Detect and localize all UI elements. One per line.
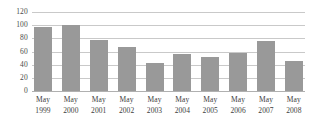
bar xyxy=(285,61,303,91)
x-tick-year: 2000 xyxy=(62,105,80,116)
x-tick-month: May xyxy=(257,94,275,105)
bar xyxy=(118,47,136,91)
bar xyxy=(62,25,80,91)
x-tick-label: May2005 xyxy=(201,94,219,116)
y-tick-label: 40 xyxy=(0,61,28,69)
y-axis-labels: 120100806040200 xyxy=(0,0,28,133)
x-tick-year: 2005 xyxy=(201,105,219,116)
x-tick-year: 2007 xyxy=(257,105,275,116)
y-tick-label: 100 xyxy=(0,21,28,29)
x-tick-month: May xyxy=(118,94,136,105)
x-tick-month: May xyxy=(173,94,191,105)
x-tick-year: 2002 xyxy=(118,105,136,116)
bar xyxy=(229,53,247,91)
x-tick-month: May xyxy=(146,94,164,105)
x-tick-year: 2008 xyxy=(285,105,303,116)
x-tick-year: 2006 xyxy=(229,105,247,116)
bar-chart: 120100806040200 May1999May2000May2001May… xyxy=(0,0,316,133)
x-tick-month: May xyxy=(34,94,52,105)
x-tick-year: 2001 xyxy=(90,105,108,116)
x-tick-year: 2004 xyxy=(173,105,191,116)
x-tick-month: May xyxy=(90,94,108,105)
plot-area xyxy=(32,12,305,91)
x-tick-month: May xyxy=(229,94,247,105)
x-tick-label: May2006 xyxy=(229,94,247,116)
x-tick-label: May1999 xyxy=(34,94,52,116)
x-tick-label: May2004 xyxy=(173,94,191,116)
x-tick-year: 1999 xyxy=(34,105,52,116)
bar xyxy=(34,27,52,91)
x-tick-month: May xyxy=(201,94,219,105)
x-tick-label: May2000 xyxy=(62,94,80,116)
x-tick-month: May xyxy=(285,94,303,105)
x-tick-year: 2003 xyxy=(146,105,164,116)
x-tick-label: May2002 xyxy=(118,94,136,116)
y-tick-label: 80 xyxy=(0,34,28,42)
bar-series xyxy=(32,12,305,91)
y-tick-label: 120 xyxy=(0,8,28,16)
x-axis-labels: May1999May2000May2001May2002May2003May20… xyxy=(32,94,305,116)
y-tick-label: 0 xyxy=(0,87,28,95)
gridline xyxy=(32,91,305,92)
x-tick-month: May xyxy=(62,94,80,105)
x-tick-label: May2008 xyxy=(285,94,303,116)
bar xyxy=(257,41,275,91)
bar xyxy=(201,57,219,91)
x-tick-label: May2007 xyxy=(257,94,275,116)
bar xyxy=(173,54,191,91)
x-tick-label: May2003 xyxy=(146,94,164,116)
bar xyxy=(90,40,108,91)
y-tick-label: 60 xyxy=(0,48,28,56)
bar xyxy=(146,63,164,91)
x-tick-label: May2001 xyxy=(90,94,108,116)
y-tick-label: 20 xyxy=(0,74,28,82)
